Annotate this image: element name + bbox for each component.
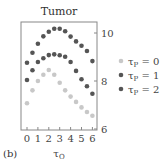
data-point bbox=[30, 68, 35, 73]
data-point bbox=[68, 60, 73, 65]
legend-marker bbox=[119, 87, 124, 92]
data-point bbox=[85, 110, 90, 115]
data-point bbox=[68, 34, 73, 39]
data-point bbox=[25, 60, 30, 65]
x-tick-label: 2 bbox=[46, 133, 52, 144]
data-point bbox=[74, 100, 79, 105]
data-point bbox=[41, 72, 46, 77]
legend-marker bbox=[119, 73, 124, 78]
x-tick-label: 0 bbox=[24, 133, 30, 144]
x-axis-label: τO bbox=[53, 148, 65, 161]
data-point bbox=[57, 26, 62, 31]
data-point bbox=[68, 94, 73, 99]
data-point bbox=[90, 114, 95, 119]
data-points bbox=[25, 26, 95, 118]
legend-label: τP = 1 bbox=[128, 70, 159, 83]
data-point bbox=[79, 77, 84, 82]
data-point bbox=[52, 52, 57, 57]
data-point bbox=[25, 78, 30, 83]
x-tick-label: 6 bbox=[89, 133, 95, 144]
y-tick-label: 8 bbox=[101, 76, 107, 87]
data-point bbox=[30, 50, 35, 55]
chart-title: Tumor bbox=[41, 5, 78, 18]
y-tick-label: 6 bbox=[101, 124, 107, 135]
data-point bbox=[41, 56, 46, 61]
data-point bbox=[41, 34, 46, 39]
data-point bbox=[30, 88, 35, 93]
data-point bbox=[63, 88, 68, 93]
data-point bbox=[57, 53, 62, 58]
legend-label: τP = 2 bbox=[128, 84, 159, 97]
data-point bbox=[57, 80, 62, 85]
data-point bbox=[79, 43, 84, 48]
scatter-chart: Tumor 6810 0123456 τO τP = 0τP = 1τP = 2… bbox=[0, 0, 165, 165]
data-point bbox=[79, 105, 84, 110]
x-tick-label: 1 bbox=[35, 133, 41, 144]
x-tick-label: 5 bbox=[78, 133, 84, 144]
data-point bbox=[85, 49, 90, 54]
data-point bbox=[74, 69, 79, 74]
data-point bbox=[25, 101, 30, 106]
data-point bbox=[36, 60, 41, 65]
data-point bbox=[52, 72, 57, 77]
data-point bbox=[47, 53, 52, 58]
data-point bbox=[63, 54, 68, 59]
data-point bbox=[74, 39, 79, 44]
x-tick-label: 3 bbox=[57, 133, 63, 144]
data-point bbox=[85, 84, 90, 89]
legend-marker bbox=[119, 59, 124, 64]
data-point bbox=[90, 59, 95, 64]
legend-label: τP = 0 bbox=[128, 56, 159, 69]
data-point bbox=[52, 26, 57, 31]
data-point bbox=[36, 42, 41, 47]
data-point bbox=[63, 29, 68, 34]
data-point bbox=[47, 68, 52, 73]
y-tick-label: 10 bbox=[101, 28, 114, 39]
data-point bbox=[90, 91, 95, 96]
panel-label: (b) bbox=[3, 148, 17, 159]
data-point bbox=[36, 79, 41, 84]
legend: τP = 0τP = 1τP = 2 bbox=[119, 56, 160, 97]
data-point bbox=[47, 30, 52, 35]
x-tick-label: 4 bbox=[67, 133, 73, 144]
